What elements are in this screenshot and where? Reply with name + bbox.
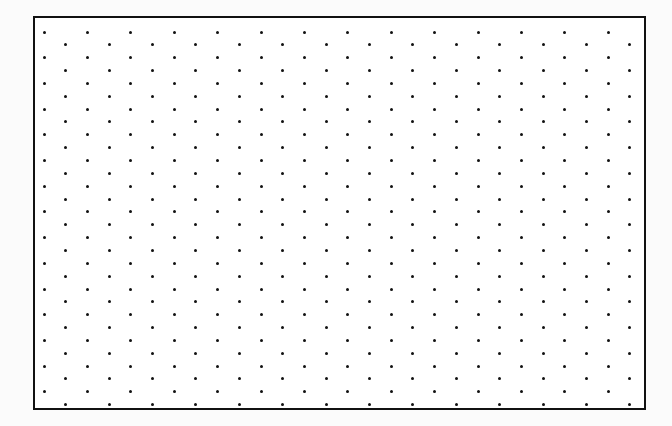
- lattice-dot: [260, 339, 263, 342]
- lattice-dot: [390, 365, 393, 368]
- lattice-dot: [368, 95, 371, 98]
- lattice-dot: [151, 172, 154, 175]
- lattice-dot: [43, 185, 46, 188]
- lattice-dot: [86, 185, 89, 188]
- lattice-dot: [433, 288, 436, 291]
- lattice-dot: [628, 223, 631, 226]
- lattice-dot: [368, 377, 371, 380]
- lattice-dot: [260, 133, 263, 136]
- lattice-dot: [194, 223, 197, 226]
- lattice-dot: [194, 275, 197, 278]
- lattice-dot: [433, 390, 436, 393]
- lattice-dot: [281, 275, 284, 278]
- lattice-dot: [281, 300, 284, 303]
- lattice-dot: [86, 390, 89, 393]
- lattice-dot: [86, 56, 89, 59]
- lattice-dot: [194, 352, 197, 355]
- lattice-dot: [433, 108, 436, 111]
- lattice-dot: [86, 339, 89, 342]
- lattice-dot: [607, 159, 610, 162]
- lattice-dot: [64, 403, 67, 406]
- lattice-dot: [151, 377, 154, 380]
- lattice-dot: [216, 313, 219, 316]
- lattice-dot: [520, 365, 523, 368]
- lattice-dot: [433, 31, 436, 34]
- lattice-dot: [498, 69, 501, 72]
- lattice-dot: [390, 210, 393, 213]
- lattice-dot: [238, 172, 241, 175]
- lattice-dot: [585, 249, 588, 252]
- lattice-dot: [628, 95, 631, 98]
- lattice-dot: [455, 300, 458, 303]
- lattice-dot: [368, 120, 371, 123]
- lattice-dot: [368, 43, 371, 46]
- lattice-dot: [216, 288, 219, 291]
- lattice-dot: [260, 365, 263, 368]
- lattice-dot: [346, 365, 349, 368]
- lattice-dot: [86, 313, 89, 316]
- lattice-dot: [455, 377, 458, 380]
- lattice-dot: [477, 31, 480, 34]
- lattice-dot: [477, 133, 480, 136]
- lattice-dot: [173, 56, 176, 59]
- lattice-dot: [173, 185, 176, 188]
- lattice-dot: [455, 223, 458, 226]
- lattice-dot: [173, 390, 176, 393]
- lattice-dot: [628, 403, 631, 406]
- lattice-dot: [542, 223, 545, 226]
- lattice-dot: [108, 43, 111, 46]
- lattice-dot: [216, 236, 219, 239]
- lattice-dot: [303, 313, 306, 316]
- lattice-dot: [303, 365, 306, 368]
- lattice-dot: [585, 223, 588, 226]
- lattice-dot: [607, 31, 610, 34]
- lattice-dot: [151, 352, 154, 355]
- lattice-dot: [433, 262, 436, 265]
- lattice-dot: [86, 108, 89, 111]
- lattice-dot: [194, 198, 197, 201]
- lattice-dot: [260, 31, 263, 34]
- lattice-dot: [368, 223, 371, 226]
- lattice-dot: [64, 377, 67, 380]
- lattice-dot: [477, 82, 480, 85]
- lattice-dot: [86, 210, 89, 213]
- lattice-dot: [346, 56, 349, 59]
- lattice-dot: [325, 300, 328, 303]
- lattice-dot: [216, 390, 219, 393]
- lattice-dot: [151, 69, 154, 72]
- lattice-dot: [477, 108, 480, 111]
- lattice-dot: [585, 146, 588, 149]
- lattice-dot: [498, 172, 501, 175]
- lattice-dot: [477, 159, 480, 162]
- lattice-dot: [325, 326, 328, 329]
- lattice-dot: [260, 288, 263, 291]
- lattice-dot: [411, 377, 414, 380]
- lattice-dot: [129, 365, 132, 368]
- lattice-dot: [411, 300, 414, 303]
- lattice-dot: [194, 172, 197, 175]
- lattice-dot: [585, 43, 588, 46]
- lattice-dot: [129, 31, 132, 34]
- lattice-dot: [173, 313, 176, 316]
- lattice-dot: [520, 236, 523, 239]
- lattice-dot: [411, 352, 414, 355]
- lattice-dot: [86, 365, 89, 368]
- lattice-dot: [477, 210, 480, 213]
- lattice-dot: [368, 300, 371, 303]
- lattice-dot: [628, 275, 631, 278]
- lattice-dot: [64, 326, 67, 329]
- lattice-dot: [498, 249, 501, 252]
- lattice-dot: [520, 133, 523, 136]
- lattice-dot: [628, 120, 631, 123]
- lattice-dot: [346, 31, 349, 34]
- lattice-dot: [520, 31, 523, 34]
- lattice-dot: [108, 403, 111, 406]
- lattice-dot: [64, 352, 67, 355]
- lattice-dot: [43, 159, 46, 162]
- lattice-dot: [542, 120, 545, 123]
- lattice-dot: [86, 159, 89, 162]
- lattice-dot: [129, 390, 132, 393]
- lattice-dot: [585, 300, 588, 303]
- lattice-dot: [129, 288, 132, 291]
- lattice-dot: [607, 365, 610, 368]
